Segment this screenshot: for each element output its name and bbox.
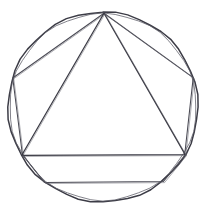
circumscribed-circle-ghost [10, 13, 195, 201]
inscribed-triangle [22, 13, 186, 155]
inscribed-triangle-group [22, 13, 187, 156]
inscribed-triangle-ghost [23, 14, 187, 156]
geometry-figure: Circle with inscribed heptagon and inscr… [0, 0, 209, 212]
figure-canvas: Circle with inscribed heptagon and inscr… [0, 0, 209, 212]
